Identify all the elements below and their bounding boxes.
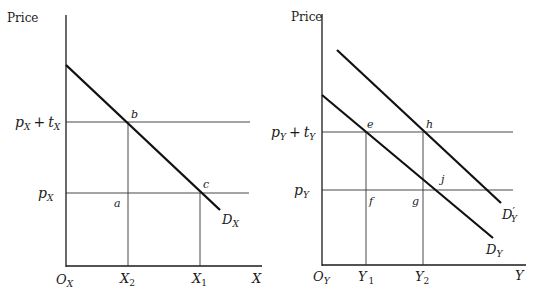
label-x1: X1 (191, 271, 207, 288)
left-panel: Price pX+tX pX b c a DX OX X2 (7, 11, 262, 289)
label-origin-x: OX (56, 272, 74, 289)
label-py-plus-ty: pY+tY (271, 124, 316, 142)
point-h: h (426, 118, 433, 131)
label-py: pY (294, 182, 310, 200)
label-px: pX (38, 185, 54, 203)
label-x2: X2 (119, 271, 135, 288)
label-y2: Y2 (415, 269, 429, 286)
label-dx: DX (221, 212, 239, 229)
point-c: c (203, 178, 209, 191)
label-origin-y: OY (313, 269, 331, 286)
label-dy: DY (485, 242, 503, 259)
point-f: f (368, 195, 375, 208)
right-price-axis-label: Price (291, 10, 322, 24)
label-px-plus-tx: pX+tX (15, 114, 61, 132)
label-x-axis: X (251, 271, 262, 286)
point-e: e (367, 118, 374, 131)
demand-curve-dx (66, 65, 220, 210)
tax-demand-diagram: Price pX+tX pX b c a DX OX X2 (0, 0, 535, 296)
point-a: a (114, 197, 121, 210)
right-panel: Price pY+tY pY e h f g j D′Y DY (271, 10, 526, 286)
label-dy-prime: D′Y (501, 205, 518, 224)
point-j: j (438, 173, 445, 186)
point-g: g (412, 195, 419, 208)
label-y1: Y1 (358, 269, 374, 286)
left-price-axis-label: Price (7, 11, 38, 25)
demand-curve-dy-prime (337, 50, 501, 203)
point-b: b (131, 108, 138, 121)
label-y-axis: Y (515, 268, 525, 283)
